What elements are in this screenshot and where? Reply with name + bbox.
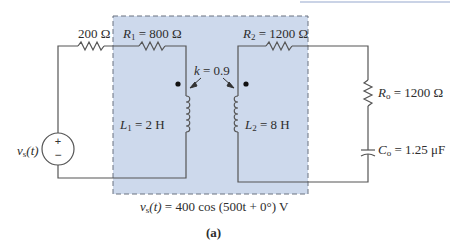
label-l2: L2 = 8 H [245, 118, 290, 133]
label-co: Co = 1.25 μF [378, 143, 445, 158]
resistor-200 [78, 42, 104, 50]
polarity-dot-l2 [243, 81, 248, 86]
label-l1: L1 = 2 H [120, 118, 165, 133]
label-ro: Ro = 1200 Ω [378, 86, 443, 101]
label-r1: R1 = 800 Ω [123, 27, 182, 42]
source-minus-sign: − [54, 148, 61, 162]
label-r2: R2 = 1200 Ω [243, 27, 308, 42]
label-coupling: k = 0.9 [194, 64, 230, 77]
polarity-dot-l1 [175, 81, 180, 86]
figure-caption: (a) [206, 226, 221, 239]
label-source: vs(t) [17, 144, 39, 159]
source-plus-sign: + [55, 135, 61, 147]
label-r-series: 200 Ω [78, 27, 110, 40]
resistor-ro [364, 80, 372, 106]
source-equation: vs(t) = 400 cos (500t + 0°) V [140, 200, 288, 215]
